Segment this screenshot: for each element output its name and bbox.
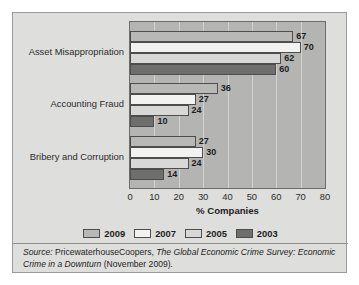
source-publisher: PricewaterhouseCoopers, [55, 247, 156, 257]
legend-item-2005[interactable]: 2005 [185, 228, 227, 239]
source-date: (November 2009). [104, 259, 173, 269]
bar-row: 30 [130, 147, 325, 158]
bar-row: 70 [130, 42, 325, 53]
category-label-bribery-and-corruption: Bribery and Corruption [14, 152, 124, 162]
legend-item-2009[interactable]: 2009 [83, 228, 125, 239]
bar-2003-asset-misappropriation [130, 64, 276, 75]
x-axis: 01020304050607080 [129, 189, 326, 205]
source-note: Source: PricewaterhouseCoopers, The Glob… [23, 247, 339, 270]
legend-swatch-2009 [83, 229, 100, 238]
chart-figure: Asset MisappropriationAccounting FraudBr… [12, 12, 347, 273]
legend-swatch-2007 [134, 229, 151, 238]
bar-value-label: 60 [279, 63, 289, 75]
legend-label-2005: 2005 [206, 228, 227, 239]
legend-label-2007: 2007 [155, 228, 176, 239]
legend-label-2003: 2003 [257, 228, 278, 239]
bar-row: 10 [130, 116, 325, 127]
bar-value-label: 24 [192, 157, 202, 169]
source-divider [13, 243, 348, 244]
bar-2005-bribery-and-corruption [130, 158, 189, 169]
category-axis: Asset MisappropriationAccounting FraudBr… [15, 21, 127, 189]
x-tick-label: 60 [271, 191, 281, 202]
bar-2005-asset-misappropriation [130, 53, 281, 64]
plot-area: 677062603627241027302414 [129, 21, 326, 189]
legend-swatch-2005 [185, 229, 202, 238]
chart-legend: 2009200720052003 [13, 225, 348, 241]
legend-label-2009: 2009 [104, 228, 125, 239]
x-tick-label: 20 [174, 191, 184, 202]
bar-row: 36 [130, 83, 325, 94]
bar-row: 14 [130, 169, 325, 180]
plot-wrapper: Asset MisappropriationAccounting FraudBr… [13, 13, 348, 191]
bar-value-label: 30 [206, 146, 216, 158]
x-tick-label: 80 [320, 191, 330, 202]
bar-2003-accounting-fraud [130, 116, 154, 127]
x-tick-label: 30 [198, 191, 208, 202]
bar-row: 27 [130, 94, 325, 105]
bar-2009-asset-misappropriation [130, 31, 293, 42]
x-tick-label: 0 [127, 191, 132, 202]
x-tick-label: 10 [149, 191, 159, 202]
x-tick-label: 50 [247, 191, 257, 202]
bar-row: 27 [130, 136, 325, 147]
source-prefix: Source: [23, 247, 55, 257]
x-axis-label: % Companies [129, 205, 326, 216]
bar-value-label: 24 [192, 104, 202, 116]
bar-value-label: 70 [304, 41, 314, 53]
bar-value-label: 14 [167, 168, 177, 180]
bar-value-label: 10 [157, 115, 167, 127]
bar-row: 24 [130, 158, 325, 169]
x-tick-label: 40 [222, 191, 232, 202]
bar-2009-bribery-and-corruption [130, 136, 196, 147]
category-label-asset-misappropriation: Asset Misappropriation [14, 47, 124, 57]
bar-2007-asset-misappropriation [130, 42, 301, 53]
legend-swatch-2003 [236, 229, 253, 238]
category-label-accounting-fraud: Accounting Fraud [14, 99, 124, 109]
bar-row: 62 [130, 53, 325, 64]
bar-2007-accounting-fraud [130, 94, 196, 105]
bar-2003-bribery-and-corruption [130, 169, 164, 180]
bar-row: 67 [130, 31, 325, 42]
bar-value-label: 36 [221, 82, 231, 94]
bar-row: 60 [130, 64, 325, 75]
legend-item-2007[interactable]: 2007 [134, 228, 176, 239]
legend-item-2003[interactable]: 2003 [236, 228, 278, 239]
x-tick-label: 70 [295, 191, 305, 202]
